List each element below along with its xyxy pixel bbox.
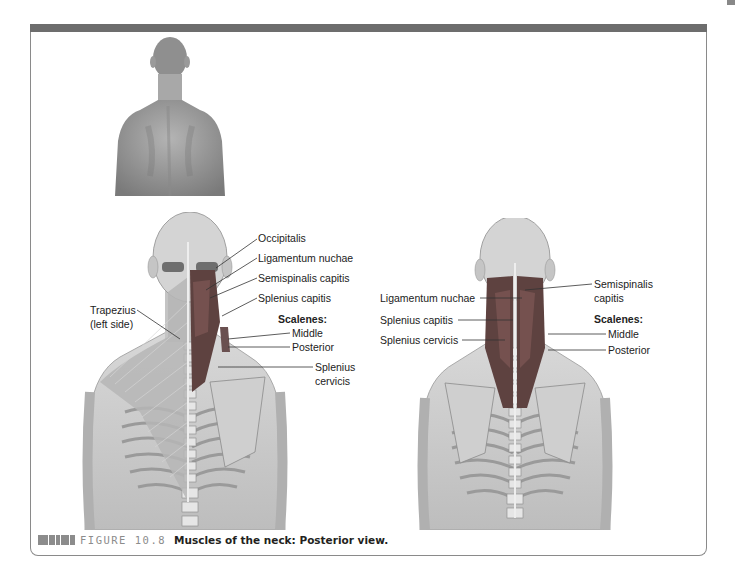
right-neck-illustration — [415, 218, 615, 530]
label-occipitalis: Occipitalis — [258, 232, 306, 244]
page-corner-mark — [727, 0, 735, 5]
figure-top-bar — [30, 24, 707, 32]
label-trapezius-line1: Trapezius — [90, 304, 136, 316]
label-splenius-capitis: Splenius capitis — [258, 292, 331, 304]
label-semispinalis-capitis-right-line2: capitis — [594, 292, 624, 304]
label-semispinalis-capitis-right-line1: Semispinalis — [594, 278, 653, 290]
figure-label: FIGURE 10.8 — [80, 534, 166, 546]
label-scalenes-posterior-right: Posterior — [608, 344, 650, 356]
label-splenius-cervicis-right: Splenius cervicis — [380, 334, 458, 346]
label-scalenes-posterior: Posterior — [292, 341, 334, 353]
label-trapezius-line2: (left side) — [90, 318, 133, 330]
caption-bar-icon — [38, 535, 75, 545]
label-ligamentum-nuchae-right: Ligamentum nuchae — [380, 292, 475, 304]
back-photo-thumbnail — [110, 36, 230, 196]
label-scalenes-heading: Scalenes: — [278, 313, 327, 325]
figure-caption: FIGURE 10.8 Muscles of the neck: Posteri… — [38, 534, 388, 546]
label-splenius-cervicis-line1: Splenius — [315, 361, 355, 373]
label-splenius-capitis-right: Splenius capitis — [380, 314, 453, 326]
label-semispinalis-capitis: Semispinalis capitis — [258, 272, 350, 284]
label-scalenes-middle: Middle — [292, 327, 323, 339]
label-splenius-cervicis-line2: cervicis — [315, 375, 350, 387]
label-scalenes-heading-right: Scalenes: — [594, 313, 643, 325]
label-ligamentum-nuchae: Ligamentum nuchae — [258, 252, 353, 264]
label-scalenes-middle-right: Middle — [608, 328, 639, 340]
figure-title: Muscles of the neck: Posterior view. — [174, 534, 388, 546]
